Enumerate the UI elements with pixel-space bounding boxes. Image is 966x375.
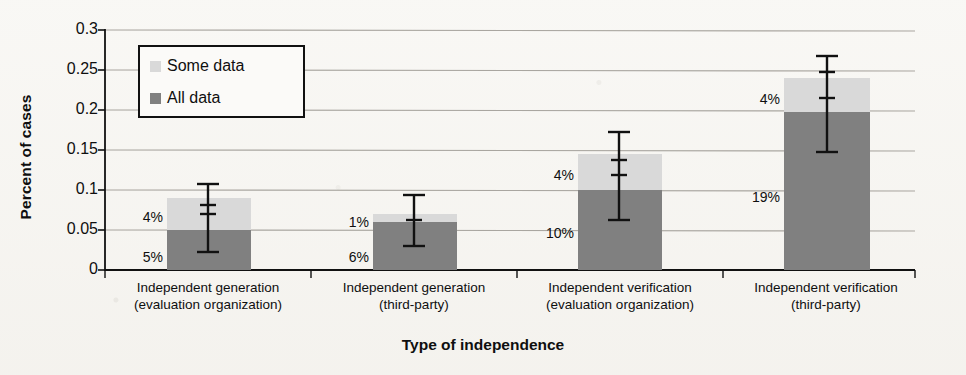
x-category-label-3-line1: Independent verification	[517, 280, 723, 297]
legend-item-some-data[interactable]: Some data	[150, 57, 244, 75]
legend-label-some-data: Some data	[167, 57, 244, 75]
x-axis-category-ticks	[105, 270, 915, 278]
bar-chart-figure: Percent of cases 0.3 0.25 0.2 0.15 0.1 0…	[0, 0, 966, 375]
bar-4-some-data-label: 4%	[720, 91, 780, 107]
x-axis-title: Type of independence	[0, 336, 966, 354]
x-category-label-4: Independent verification (third-party)	[723, 280, 929, 313]
bar-group-4[interactable]	[784, 56, 870, 270]
legend-label-all-data: All data	[167, 89, 220, 107]
chart-legend: Some data All data	[138, 45, 305, 118]
legend-item-all-data[interactable]: All data	[150, 89, 220, 107]
x-category-label-4-line1: Independent verification	[723, 280, 929, 297]
bar-group-3[interactable]	[578, 132, 662, 270]
x-category-label-3-line2: (evaluation organization)	[517, 297, 723, 314]
bar-3-all-data-label: 10%	[514, 225, 574, 241]
legend-swatch-some-data	[150, 61, 161, 72]
bar-group-2[interactable]	[373, 195, 457, 270]
bar-1-some-data-label: 4%	[103, 209, 163, 225]
x-category-label-2-line1: Independent generation	[311, 280, 517, 297]
y-axis-ticks	[98, 30, 105, 270]
legend-swatch-all-data	[150, 93, 161, 104]
bar-4-all-data-label: 19%	[714, 189, 780, 205]
bar-3-some-data-label: 4%	[514, 167, 574, 183]
x-category-label-1: Independent generation (evaluation organ…	[105, 280, 311, 313]
x-category-label-4-line2: (third-party)	[723, 297, 929, 314]
gridline-0.3	[105, 30, 915, 31]
bar-2-all-data-label: 6%	[309, 249, 369, 265]
x-category-label-1-line1: Independent generation	[105, 280, 311, 297]
bar-2-some-data-label: 1%	[309, 214, 369, 230]
bar-group-1[interactable]	[167, 184, 251, 270]
x-category-label-2: Independent generation (third-party)	[311, 280, 517, 313]
x-category-label-2-line2: (third-party)	[311, 297, 517, 314]
bar-1-all-data-label: 5%	[103, 249, 163, 265]
x-category-label-3: Independent verification (evaluation org…	[517, 280, 723, 313]
x-category-label-1-line2: (evaluation organization)	[105, 297, 311, 314]
